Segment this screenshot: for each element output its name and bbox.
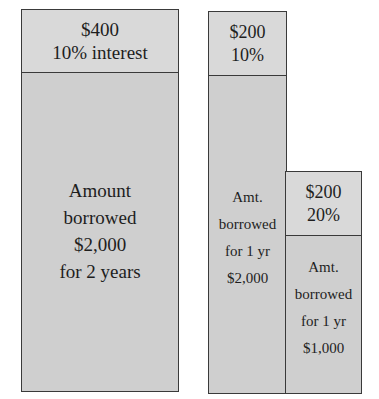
right-interest-amount: $200 <box>306 181 342 204</box>
middle-principal-line-1: Amt. <box>232 184 262 211</box>
left-loan-block: $400 10% interest Amount borrowed $2,000… <box>21 9 179 392</box>
left-principal-cell: Amount borrowed $2,000 for 2 years <box>22 73 178 391</box>
right-principal-amount: $1,000 <box>303 335 344 362</box>
middle-principal-cell: Amt. borrowed for 1 yr $2,000 <box>209 76 286 393</box>
left-interest-amount: $400 <box>81 18 119 41</box>
middle-interest-rate: 10% <box>231 44 264 67</box>
left-interest-cell: $400 10% interest <box>22 10 178 73</box>
left-principal-amount: $2,000 <box>74 231 126 258</box>
right-interest-rate: 20% <box>307 204 340 227</box>
middle-principal-line-2: borrowed <box>219 211 276 238</box>
left-principal-line-1: Amount <box>69 177 131 204</box>
middle-principal-term: for 1 yr <box>225 238 270 265</box>
right-interest-cell: $200 20% <box>286 172 361 236</box>
left-principal-line-2: borrowed <box>64 204 137 231</box>
right-principal-line-2: borrowed <box>295 281 352 308</box>
middle-principal-amount: $2,000 <box>227 265 268 292</box>
right-loan-block: $200 20% Amt. borrowed for 1 yr $1,000 <box>285 171 362 394</box>
right-principal-line-1: Amt. <box>308 254 338 281</box>
middle-loan-block: $200 10% Amt. borrowed for 1 yr $2,000 <box>208 11 287 394</box>
right-principal-term: for 1 yr <box>301 308 346 335</box>
left-principal-term: for 2 years <box>59 258 140 285</box>
left-interest-rate: 10% interest <box>52 41 148 64</box>
middle-interest-cell: $200 10% <box>209 12 286 76</box>
right-principal-cell: Amt. borrowed for 1 yr $1,000 <box>286 236 361 393</box>
middle-interest-amount: $200 <box>230 21 266 44</box>
